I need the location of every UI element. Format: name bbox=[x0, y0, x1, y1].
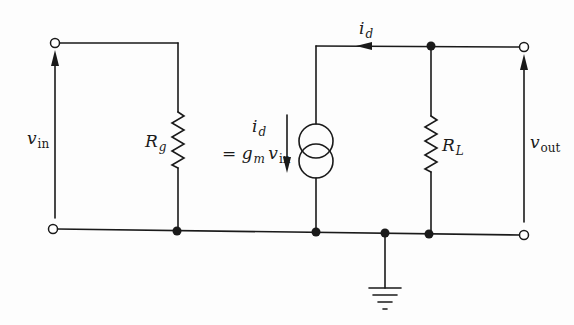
wire-bottom-rail bbox=[57, 229, 520, 235]
label-source-current-sub: d bbox=[258, 125, 266, 139]
label-vin-main: v bbox=[27, 128, 37, 148]
label-rg: Rg bbox=[145, 131, 167, 151]
label-eq-prefix: = bbox=[222, 143, 242, 163]
wire-output-top bbox=[316, 46, 520, 47]
label-vout: vout bbox=[530, 132, 560, 152]
resistor-rl bbox=[425, 116, 437, 172]
label-rg-main: R bbox=[145, 131, 158, 151]
label-rl-main: R bbox=[442, 135, 455, 155]
label-id-top: id bbox=[359, 18, 373, 38]
terminal-input-top bbox=[51, 39, 60, 48]
label-eq-v-sub: in bbox=[279, 152, 291, 166]
terminal-output-bottom bbox=[520, 231, 529, 240]
label-rg-sub: g bbox=[159, 140, 167, 154]
current-source-circle-bottom bbox=[299, 144, 333, 178]
label-vin: vin bbox=[27, 128, 49, 148]
label-vin-sub: in bbox=[38, 137, 50, 151]
vin-arrowhead-icon bbox=[51, 50, 59, 66]
id-arrowhead-icon bbox=[356, 42, 372, 50]
label-eq-v-main: v bbox=[268, 143, 278, 163]
label-gm-main: g bbox=[242, 143, 253, 163]
vout-arrowhead-icon bbox=[520, 54, 528, 70]
label-source-equation: = gm vin bbox=[222, 143, 291, 163]
label-id-top-sub: d bbox=[365, 27, 373, 41]
junction-node-rl-bottom bbox=[425, 230, 434, 239]
label-vout-sub: out bbox=[541, 141, 561, 155]
label-id-top-main: i bbox=[359, 18, 364, 38]
label-source-current: id bbox=[252, 116, 266, 136]
terminal-output-top bbox=[520, 43, 529, 52]
label-source-current-main: i bbox=[252, 116, 257, 136]
label-rl: RL bbox=[442, 135, 464, 155]
junction-node-ground bbox=[381, 229, 390, 238]
junction-node-source bbox=[312, 228, 321, 237]
terminal-input-bottom bbox=[49, 225, 58, 234]
label-gm-sub: m bbox=[254, 152, 265, 166]
junction-node-rg bbox=[173, 227, 182, 236]
label-vout-main: v bbox=[530, 132, 540, 152]
junction-node-rl-top bbox=[427, 42, 436, 51]
circuit-diagram: vin Rg id id = gm vin RL vout bbox=[0, 0, 574, 325]
label-rl-sub: L bbox=[456, 144, 464, 158]
resistor-rg bbox=[172, 112, 184, 168]
current-source-circle-top bbox=[299, 124, 333, 158]
